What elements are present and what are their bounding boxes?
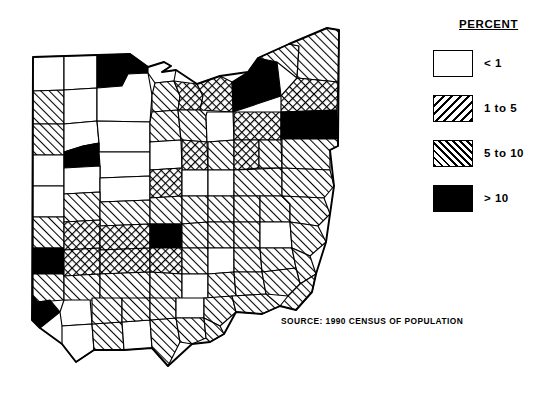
county-muskingum[interactable] — [234, 248, 262, 272]
county-marion[interactable] — [150, 168, 182, 198]
county-gallia[interactable] — [176, 318, 206, 344]
county-vinton[interactable] — [176, 298, 204, 318]
source-note: SOURCE: 1990 CENSUS OF POPULATION — [281, 316, 463, 326]
legend-item-5-to-10[interactable]: 5 to 10 — [433, 138, 524, 168]
county-henry[interactable] — [64, 88, 97, 124]
county-delaware[interactable] — [182, 196, 208, 224]
county-fayette[interactable] — [150, 248, 182, 274]
legend-title: PERCENT — [459, 18, 518, 30]
county-montgomery[interactable] — [64, 248, 100, 276]
county-clinton[interactable] — [64, 274, 100, 300]
county-clermont[interactable] — [62, 324, 94, 362]
map-page: PERCENT < 1 1 to 5 5 to 10 > 10 SOURCE: … — [0, 0, 542, 393]
legend-label-over-10: > 10 — [484, 192, 509, 204]
legend-item-under-1[interactable]: < 1 — [433, 48, 502, 78]
county-clark[interactable] — [150, 224, 182, 248]
county-pickaway[interactable] — [182, 248, 208, 274]
county-franklin[interactable] — [208, 222, 234, 248]
legend-swatch-under-1 — [433, 50, 473, 77]
county-crawford[interactable] — [150, 140, 182, 170]
legend-swatch-5-to-10 — [433, 140, 473, 167]
legend-item-over-10[interactable]: > 10 — [433, 183, 509, 213]
county-madison[interactable] — [182, 222, 208, 248]
county-hocking[interactable] — [182, 274, 208, 300]
county-perry[interactable] — [208, 272, 236, 298]
legend-label-5-to-10: 5 to 10 — [484, 147, 524, 159]
county-hardin[interactable] — [100, 176, 150, 202]
legend: PERCENT < 1 1 to 5 5 to 10 > 10 — [404, 18, 542, 228]
county-morrow[interactable] — [182, 170, 208, 196]
county-preble[interactable] — [33, 248, 64, 274]
county-highland[interactable] — [92, 298, 122, 324]
county-hancock[interactable] — [97, 121, 150, 152]
county-champaign[interactable] — [100, 224, 150, 250]
county-shelby[interactable] — [64, 192, 100, 222]
county-greene[interactable] — [100, 248, 150, 274]
county-warren[interactable] — [60, 298, 92, 326]
county-columbiana[interactable] — [282, 168, 334, 198]
county-licking[interactable] — [234, 222, 260, 248]
county-brown[interactable] — [92, 322, 124, 350]
county-knox[interactable] — [208, 196, 234, 222]
county-pike[interactable] — [122, 298, 150, 322]
county-seneca[interactable] — [150, 110, 181, 142]
county-wayne[interactable] — [208, 170, 234, 196]
legend-swatch-over-10 — [433, 185, 473, 212]
county-paulding[interactable] — [33, 124, 64, 155]
county-darke[interactable] — [33, 217, 64, 248]
legend-label-under-1: < 1 — [484, 57, 502, 69]
county-adams[interactable] — [122, 320, 152, 350]
county-huron[interactable] — [178, 110, 207, 142]
county-butler[interactable] — [33, 274, 64, 302]
county-athens[interactable] — [232, 294, 280, 314]
county-trumbull[interactable] — [281, 110, 338, 140]
county-holmes[interactable] — [234, 196, 260, 222]
county-fulton[interactable] — [64, 55, 97, 90]
county-mercer[interactable] — [33, 186, 64, 217]
county-van-wert[interactable] — [33, 155, 64, 186]
county-stark[interactable] — [234, 168, 282, 196]
county-medina[interactable] — [206, 112, 234, 142]
county-summit-n[interactable] — [234, 112, 281, 140]
county-summit[interactable] — [234, 140, 259, 170]
county-richland[interactable] — [182, 140, 208, 170]
county-geauga[interactable] — [281, 78, 338, 112]
county-jackson[interactable] — [150, 298, 176, 320]
county-fairfield[interactable] — [208, 248, 234, 274]
county-auglaize[interactable] — [64, 166, 100, 194]
county-logan[interactable] — [100, 200, 150, 226]
county-portage[interactable] — [259, 140, 282, 168]
county-warren-c[interactable] — [100, 272, 150, 300]
county-morgan[interactable] — [234, 272, 266, 296]
county-williams[interactable] — [33, 56, 64, 91]
county-cuyahoga[interactable] — [232, 58, 281, 112]
county-ashland[interactable] — [208, 140, 234, 170]
legend-swatch-1-to-5 — [433, 95, 473, 122]
county-defiance[interactable] — [33, 90, 64, 124]
legend-item-1-to-5[interactable]: 1 to 5 — [433, 93, 517, 123]
county-ross[interactable] — [150, 272, 182, 300]
county-coshocton[interactable] — [260, 222, 292, 248]
county-union[interactable] — [150, 196, 182, 224]
county-miami[interactable] — [64, 220, 100, 250]
county-wyandot[interactable] — [99, 152, 150, 178]
legend-label-1-to-5: 1 to 5 — [484, 102, 517, 114]
